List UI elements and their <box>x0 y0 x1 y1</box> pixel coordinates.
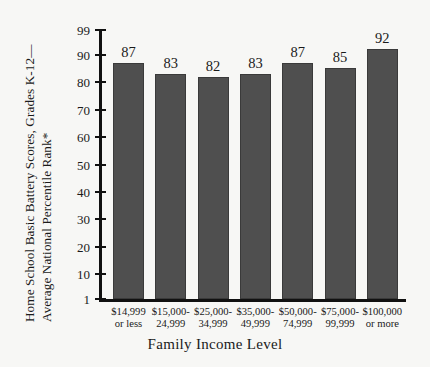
x-axis-category-label: $14,999or less <box>111 306 145 329</box>
bar <box>367 49 398 299</box>
y-axis-tick-label: 30 <box>77 213 90 226</box>
x-axis-category-label-line: or more <box>362 318 402 330</box>
bar <box>240 74 271 299</box>
y-axis-tick-label: 50 <box>77 158 90 171</box>
y-axis-title-line-1: Home School Basic Battery Scores, Grades… <box>23 45 36 322</box>
x-axis-category-label: $15,000-24,999 <box>152 306 190 329</box>
x-axis-category-label-line: $100,000 <box>362 306 402 318</box>
bar-value-label: 87 <box>121 45 136 60</box>
x-axis-category-label-line: $25,000- <box>194 306 232 318</box>
y-axis-tick-label: 20 <box>77 240 90 253</box>
y-axis-tick-label: 1 <box>84 293 91 306</box>
x-axis-category-label: $75,000-99,999 <box>321 306 359 329</box>
bar <box>282 63 313 299</box>
y-axis-tick-mark <box>95 246 106 248</box>
x-axis-category-label-line: $50,000- <box>279 306 317 318</box>
x-axis-category-label-line: 99,999 <box>321 318 359 330</box>
y-axis-title-line-2: Average National Percentile Rank* <box>40 133 53 322</box>
y-axis-tick-mark <box>95 109 106 111</box>
bar-value-label: 85 <box>333 50 348 65</box>
y-axis-tick-mark <box>95 273 106 275</box>
y-axis-tick-label: 90 <box>77 48 90 61</box>
x-axis-category-label-line: $14,999 <box>111 306 145 318</box>
y-axis-tick-mark <box>95 29 106 31</box>
bar <box>113 63 144 299</box>
y-axis-tick-label: 70 <box>77 103 90 116</box>
bar <box>325 68 356 299</box>
x-axis-category-label-line: 74,999 <box>279 318 317 330</box>
y-axis-tick-label: 60 <box>77 131 90 144</box>
y-axis-tick-mark <box>95 81 106 83</box>
bar-chart-figure: Home School Basic Battery Scores, Grades… <box>0 0 430 367</box>
bar-value-label: 82 <box>206 59 221 74</box>
bar-value-label: 83 <box>248 56 263 71</box>
x-axis-category-label-line: $35,000- <box>236 306 274 318</box>
x-axis-category-label: $25,000-34,999 <box>194 306 232 329</box>
bar <box>198 77 229 299</box>
y-axis-tick-label: 40 <box>77 185 90 198</box>
x-axis-category-label-line: 34,999 <box>194 318 232 330</box>
bar <box>155 74 186 299</box>
x-axis-category-label-line: $75,000- <box>321 306 359 318</box>
y-axis-tick-label: 10 <box>77 268 90 281</box>
bar-value-label: 92 <box>375 31 390 46</box>
bar-value-label: 87 <box>290 45 305 60</box>
x-axis-category-label: $35,000-49,999 <box>236 306 274 329</box>
y-axis-tick-label: 99 <box>77 24 90 37</box>
bar-value-label: 83 <box>164 56 179 71</box>
y-axis-tick-mark <box>95 54 106 56</box>
x-axis-category-label-line: 49,999 <box>236 318 274 330</box>
plot-area: 110203040506070809099 87838283878592 $14… <box>99 30 406 300</box>
y-axis-tick-label: 80 <box>77 76 90 89</box>
x-axis-title: Family Income Level <box>0 336 430 353</box>
y-axis-title: Home School Basic Battery Scores, Grades… <box>4 0 66 330</box>
x-axis-category-label-line: 24,999 <box>152 318 190 330</box>
y-axis-tick-mark <box>95 218 106 220</box>
x-axis-category-label: $50,000-74,999 <box>279 306 317 329</box>
x-axis-tick-labels: $14,999or less$15,000-24,999$25,000-34,9… <box>99 299 406 339</box>
y-axis-tick-mark <box>95 136 106 138</box>
y-axis-tick-mark <box>95 164 106 166</box>
x-axis-category-label-line: or less <box>111 318 145 330</box>
y-axis-tick-mark <box>95 191 106 193</box>
x-axis-category-label: $100,000or more <box>362 306 402 329</box>
x-axis-category-label-line: $15,000- <box>152 306 190 318</box>
